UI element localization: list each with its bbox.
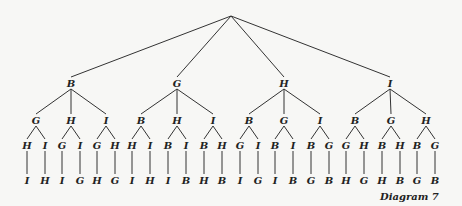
- tree-node-level3: H: [126, 140, 137, 151]
- edge-level2-to-level3: [391, 126, 400, 139]
- tree-node-leaf: G: [307, 175, 316, 186]
- tree-node-level3: B: [199, 140, 208, 151]
- tree-node-level3: B: [163, 140, 172, 151]
- tree-node-level3: I: [77, 140, 83, 151]
- edge-level2-to-level3: [284, 126, 293, 139]
- tree-node-level3: H: [216, 140, 227, 151]
- edge-root-to-level1: [71, 16, 231, 77]
- tree-node-leaf: H: [144, 175, 155, 186]
- edge-level1-to-level2: [249, 89, 284, 114]
- edge-level2-to-level3: [275, 126, 284, 139]
- edge-level2-to-level3: [426, 126, 435, 139]
- tree-node-level2: B: [350, 115, 359, 126]
- tree-node-leaf: B: [430, 175, 439, 186]
- tree-node-level3: B: [270, 140, 279, 151]
- edge-level1-to-level2: [390, 89, 426, 114]
- tree-node-level3: G: [342, 140, 351, 151]
- tree-edges: [27, 16, 435, 174]
- tree-node-leaf: G: [413, 175, 422, 186]
- permutation-tree: BGHIGHIBHIBGIBGHHIIHGIIGGHHGHIIHBIIBBHHB…: [0, 0, 462, 206]
- edge-level2-to-level3: [320, 126, 329, 139]
- tree-node-leaf: G: [111, 175, 120, 186]
- edge-level2-to-level3: [346, 126, 355, 139]
- edge-level2-to-level3: [71, 126, 80, 139]
- tree-node-level2: H: [171, 115, 182, 126]
- tree-node-leaf: I: [165, 175, 171, 186]
- tree-node-leaf: B: [217, 175, 226, 186]
- tree-node-level2: G: [32, 115, 41, 126]
- tree-node-level3: H: [358, 140, 369, 151]
- tree-node-leaf: H: [376, 175, 387, 186]
- tree-node-level3: I: [42, 140, 48, 151]
- edge-level2-to-level3: [106, 126, 115, 139]
- tree-node-leaf: H: [340, 175, 351, 186]
- tree-node-level2: I: [317, 115, 323, 126]
- edge-level1-to-level2: [284, 89, 320, 114]
- tree-node-level2: G: [387, 115, 396, 126]
- edge-level2-to-level3: [204, 126, 213, 139]
- edge-root-to-level1: [177, 16, 231, 77]
- edge-level2-to-level3: [417, 126, 426, 139]
- tree-node-level3: G: [236, 140, 245, 151]
- edge-level2-to-level3: [27, 126, 36, 139]
- tree-node-leaf: H: [198, 175, 209, 186]
- tree-node-level3: H: [394, 140, 405, 151]
- edge-root-to-level1: [231, 16, 390, 77]
- tree-node-leaf: H: [39, 175, 50, 186]
- tree-node-level2: I: [210, 115, 216, 126]
- tree-node-level2: G: [280, 115, 289, 126]
- tree-node-level1: B: [66, 78, 75, 89]
- edge-level2-to-level3: [311, 126, 320, 139]
- tree-node-leaf: B: [288, 175, 297, 186]
- tree-node-level2: H: [420, 115, 431, 126]
- edge-level1-to-level2: [390, 89, 391, 114]
- edge-level2-to-level3: [141, 126, 150, 139]
- tree-node-leaf: H: [91, 175, 102, 186]
- tree-node-leaf: B: [324, 175, 333, 186]
- edge-level2-to-level3: [97, 126, 106, 139]
- tree-node-level2: H: [65, 115, 76, 126]
- tree-node-level3: I: [290, 140, 296, 151]
- tree-node-level1: I: [387, 78, 393, 89]
- tree-node-level2: B: [136, 115, 145, 126]
- edge-level1-to-level2: [71, 89, 106, 114]
- tree-node-leaf: I: [272, 175, 278, 186]
- edge-root-to-level1: [231, 16, 284, 77]
- edge-level1-to-level2: [141, 89, 177, 114]
- tree-node-level1: H: [278, 78, 289, 89]
- tree-node-leaf: I: [59, 175, 65, 186]
- edge-level1-to-level2: [177, 89, 213, 114]
- tree-node-level3: H: [109, 140, 120, 151]
- edge-level1-to-level2: [355, 89, 390, 114]
- tree-node-leaf: I: [24, 175, 30, 186]
- tree-node-level3: G: [93, 140, 102, 151]
- edge-level2-to-level3: [213, 126, 222, 139]
- tree-node-labels: BGHIGHIBHIBGIBGHHIIHGIIGGHHGHIIHBIIBBHHB…: [21, 78, 439, 186]
- tree-node-level2: I: [103, 115, 109, 126]
- edge-level2-to-level3: [132, 126, 141, 139]
- tree-node-leaf: I: [129, 175, 135, 186]
- tree-node-level3: I: [255, 140, 261, 151]
- tree-node-leaf: G: [76, 175, 85, 186]
- tree-node-leaf: G: [254, 175, 263, 186]
- tree-node-leaf: G: [360, 175, 369, 186]
- tree-node-level3: I: [183, 140, 189, 151]
- tree-node-level3: G: [58, 140, 67, 151]
- edge-level2-to-level3: [168, 126, 177, 139]
- tree-node-level3: I: [147, 140, 153, 151]
- tree-node-level3: G: [431, 140, 440, 151]
- diagram-caption: Diagram 7: [380, 191, 439, 202]
- edge-level1-to-level2: [36, 89, 71, 114]
- edge-level2-to-level3: [382, 126, 391, 139]
- edge-level2-to-level3: [62, 126, 71, 139]
- tree-node-level2: B: [244, 115, 253, 126]
- tree-node-leaf: B: [181, 175, 190, 186]
- edge-level2-to-level3: [249, 126, 258, 139]
- tree-node-level3: B: [306, 140, 315, 151]
- tree-node-level3: B: [412, 140, 421, 151]
- tree-node-leaf: I: [237, 175, 243, 186]
- edge-level2-to-level3: [355, 126, 364, 139]
- tree-node-level3: H: [21, 140, 32, 151]
- tree-node-leaf: B: [395, 175, 404, 186]
- edge-level2-to-level3: [177, 126, 186, 139]
